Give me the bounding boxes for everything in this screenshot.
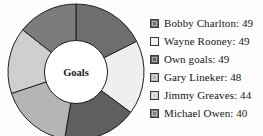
legend-color-swatch xyxy=(150,73,159,82)
legend-item-label: Wayne Rooney: 49 xyxy=(164,32,250,50)
legend-item[interactable]: Jimmy Greaves: 44 xyxy=(150,86,263,104)
legend-item-label: Jimmy Greaves: 44 xyxy=(164,86,251,104)
donut-chart-svg: Goals xyxy=(6,2,146,136)
legend-color-swatch xyxy=(150,19,159,28)
legend-color-swatch xyxy=(150,37,159,46)
legend-item-label: Michael Owen: 40 xyxy=(164,104,247,122)
legend-item[interactable]: Wayne Rooney: 49 xyxy=(150,32,263,50)
legend-item[interactable]: Michael Owen: 40 xyxy=(150,104,263,122)
legend-color-swatch xyxy=(150,109,159,118)
legend-item[interactable]: Bobby Charlton: 49 xyxy=(150,14,263,32)
chart-screenshot: Goals Bobby Charlton: 49Wayne Rooney: 49… xyxy=(0,0,263,136)
legend-item-label: Own goals: 49 xyxy=(164,50,229,68)
chart-legend: Bobby Charlton: 49Wayne Rooney: 49Own go… xyxy=(150,14,263,124)
donut-center-label: Goals xyxy=(63,67,89,78)
legend-item-label: Gary Lineker: 48 xyxy=(164,68,241,86)
legend-item[interactable]: Own goals: 49 xyxy=(150,50,263,68)
legend-item[interactable]: Gary Lineker: 48 xyxy=(150,68,263,86)
legend-color-swatch xyxy=(150,91,159,100)
legend-color-swatch xyxy=(150,55,159,64)
donut-chart: Goals xyxy=(6,2,146,136)
legend-item-label: Bobby Charlton: 49 xyxy=(164,14,253,32)
